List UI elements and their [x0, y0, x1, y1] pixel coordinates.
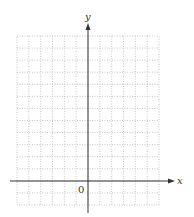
coordinate-grid-diagram: y x 0	[0, 0, 194, 217]
origin-label: 0	[78, 184, 84, 195]
y-axis-label: y	[84, 11, 91, 22]
y-axis-arrow-icon	[86, 23, 91, 30]
x-axis-label: x	[177, 175, 183, 186]
x-axis-arrow-icon	[168, 179, 175, 184]
